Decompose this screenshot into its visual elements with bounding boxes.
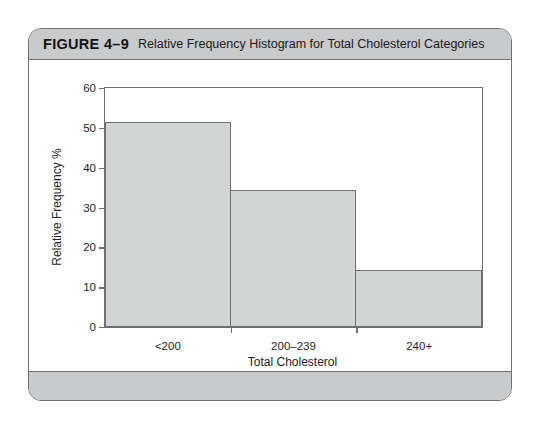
y-axis-tick-label: 0 <box>90 321 96 333</box>
figure-header: FIGURE 4–9 Relative Frequency Histogram … <box>29 29 511 60</box>
x-axis-tick-mark <box>231 327 232 333</box>
y-axis-tick-mark <box>99 168 105 169</box>
histogram-bar <box>105 122 231 327</box>
y-axis-tick-label: 50 <box>83 122 96 134</box>
y-axis-tick-mark <box>99 88 105 89</box>
y-axis-tick-mark <box>99 208 105 209</box>
x-axis-tick-mark <box>356 327 357 333</box>
x-axis-tick-label: 240+ <box>406 340 432 352</box>
y-axis-tick-label: 10 <box>83 281 96 293</box>
y-axis-tick-mark <box>99 128 105 129</box>
x-axis-label: Total Cholesterol <box>104 355 481 369</box>
figure-number: FIGURE 4–9 <box>43 36 129 52</box>
x-axis-tick-label: 200–239 <box>271 340 316 352</box>
plot-area: 0102030405060 <200200–239240+ <box>104 87 483 328</box>
y-axis-tick-mark <box>99 287 105 288</box>
y-axis-tick-label: 60 <box>83 82 96 94</box>
y-axis-tick-mark <box>99 247 105 248</box>
x-axis-tick-label: <200 <box>155 340 181 352</box>
y-axis-tick-label: 30 <box>83 202 96 214</box>
y-axis-tick-label: 40 <box>83 162 96 174</box>
figure-caption: Relative Frequency Histogram for Total C… <box>138 37 484 51</box>
histogram-bar <box>230 190 356 327</box>
chart-body: Relative Frequency % 0102030405060 <2002… <box>29 60 511 371</box>
histogram-bar <box>355 270 482 327</box>
y-axis-label: Relative Frequency % <box>49 87 65 326</box>
y-axis-tick-label: 20 <box>83 241 96 253</box>
figure-footer <box>29 371 511 400</box>
y-axis-tick-mark <box>99 327 105 328</box>
y-axis-label-text: Relative Frequency % <box>50 148 64 265</box>
figure-card: FIGURE 4–9 Relative Frequency Histogram … <box>28 28 512 401</box>
